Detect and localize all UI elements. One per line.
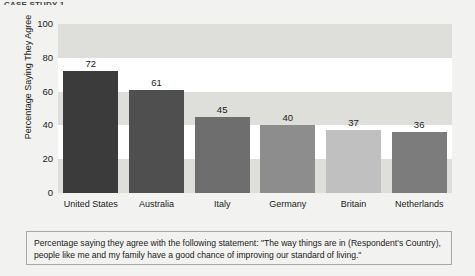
- background-band: [58, 24, 452, 58]
- y-axis-tick-label: 20: [27, 154, 53, 164]
- bar-value-label: 45: [197, 105, 247, 115]
- y-axis-tick-label: 80: [27, 53, 53, 63]
- caption-text: Percentage saying they agree with the fo…: [34, 238, 446, 261]
- bar: [326, 130, 381, 193]
- y-axis-tick-label: 100: [27, 19, 53, 29]
- bar: [129, 90, 184, 193]
- cut-off-header-fragment: CASE STUDY 1: [4, 0, 114, 5]
- bar-value-label: 61: [132, 78, 182, 88]
- bar-value-label: 40: [263, 113, 313, 123]
- plot-area: [58, 24, 452, 193]
- bar: [63, 71, 118, 193]
- x-axis-category-label: Netherlands: [379, 199, 459, 209]
- y-axis-tick-label: 40: [27, 120, 53, 130]
- bar: [260, 125, 315, 193]
- y-axis-tick-label: 60: [27, 87, 53, 97]
- y-axis-tick-label: 0: [27, 188, 53, 198]
- bar-chart-figure: Percentage Saying They Agree 02040608010…: [0, 8, 475, 218]
- bar-value-label: 37: [329, 118, 379, 128]
- bar-value-label: 36: [394, 120, 444, 130]
- caption-box: Percentage saying they agree with the fo…: [26, 231, 452, 265]
- bar: [195, 117, 250, 193]
- bar-value-label: 72: [66, 59, 116, 69]
- bar: [392, 132, 447, 193]
